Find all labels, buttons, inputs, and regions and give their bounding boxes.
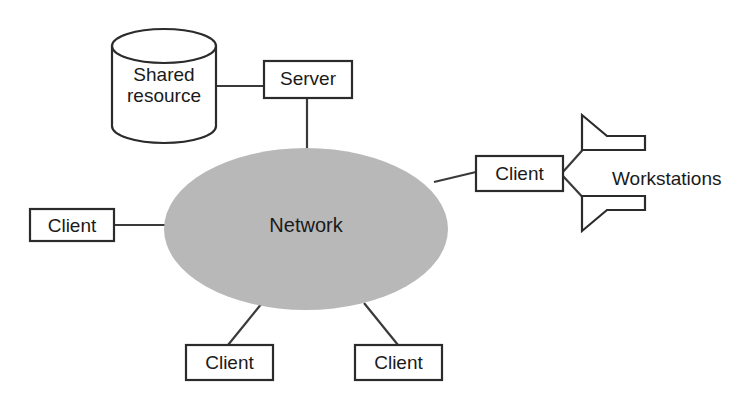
server-box <box>264 61 352 98</box>
workstation-top-icon <box>582 115 645 150</box>
connector-network-to-client-bottom-left <box>228 303 262 345</box>
client-right-box <box>476 156 563 191</box>
diagram-canvas <box>0 0 752 403</box>
connector-network-to-client-right <box>434 172 476 182</box>
client-left-box <box>30 209 114 241</box>
network-diagram: Sharedresource Server Network Client Cli… <box>0 0 752 403</box>
client-bottom-left-box <box>186 345 273 380</box>
cylinder-top-ellipse <box>112 29 216 63</box>
client-bottom-right-box <box>355 345 442 380</box>
workstation-bottom-icon <box>582 196 645 231</box>
network-ellipse <box>164 148 448 310</box>
shared-resource-cylinder <box>112 29 216 143</box>
connector-network-to-client-bottom-right <box>364 303 398 345</box>
